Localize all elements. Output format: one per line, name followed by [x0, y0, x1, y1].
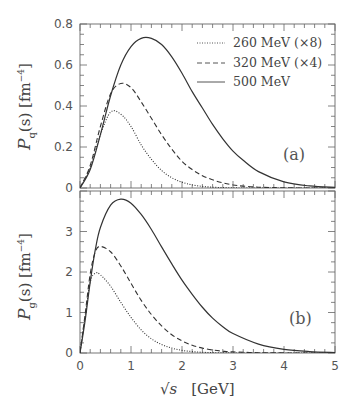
x-tick-label: 1	[127, 359, 135, 373]
legend: 260 MeV (×8) 320 MeV (×4) 500 MeV	[197, 35, 322, 89]
chart-figure: 00.20.40.60.8 0123450123 Pq(s) [fm−4] Pg…	[0, 0, 355, 416]
y-tick-label: 2	[65, 265, 73, 279]
series-solid-line	[80, 199, 335, 353]
y-tick-label: 0.8	[54, 17, 73, 31]
x-tick-label: 4	[280, 359, 288, 373]
panel-b-tag: (b)	[289, 309, 312, 328]
x-tick-label: 0	[76, 359, 84, 373]
panel-a-ylabel: Pq(s) [fm−4]	[14, 63, 37, 151]
panel-b: 0123450123	[65, 191, 338, 373]
y-tick-label: 3	[65, 225, 73, 239]
legend-item-320: 320 MeV (×4)	[233, 55, 322, 70]
legend-item-500: 500 MeV	[233, 74, 291, 89]
x-tick-label: 2	[178, 359, 186, 373]
y-tick-label: 0.2	[54, 140, 73, 154]
plot-frame	[80, 191, 335, 353]
series-dashed-line	[80, 246, 335, 353]
x-axis-label: √s[GeV]	[160, 380, 235, 398]
y-tick-label: 0.4	[54, 99, 73, 113]
x-tick-label: 3	[229, 359, 237, 373]
y-tick-label: 1	[65, 306, 73, 320]
panel-a-tag: (a)	[283, 145, 305, 164]
series-dashed-line	[80, 83, 335, 188]
x-tick-label: 5	[331, 359, 339, 373]
y-tick-label: 0.6	[54, 58, 73, 72]
y-tick-label: 0	[65, 181, 73, 195]
panel-b-ylabel: Pg(s) [fm−4]	[14, 233, 37, 321]
y-tick-label: 0	[65, 346, 73, 360]
legend-item-260: 260 MeV (×8)	[233, 35, 322, 50]
